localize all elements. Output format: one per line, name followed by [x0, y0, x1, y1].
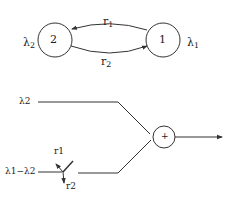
r1-label: r1 — [103, 16, 113, 29]
input-lambda2-line — [38, 102, 150, 134]
switch-r2-label: r2 — [66, 182, 76, 191]
input-lambda1-minus-lambda2-label: λ1−λ2 — [5, 167, 35, 176]
summer-plus-label: + — [161, 132, 169, 141]
input-lambda2-label: λ2 — [19, 97, 30, 106]
state-1-label: 1 — [159, 34, 166, 45]
r2-label: r2 — [101, 56, 111, 69]
lambda1-rate-label: λ1 — [187, 37, 199, 50]
switch-r1-label: r1 — [54, 147, 64, 156]
state-2-label: 2 — [50, 34, 57, 45]
lambda2-rate-label: λ2 — [23, 37, 35, 50]
switched-line — [78, 140, 151, 173]
transition-r2-arrow — [71, 46, 147, 53]
